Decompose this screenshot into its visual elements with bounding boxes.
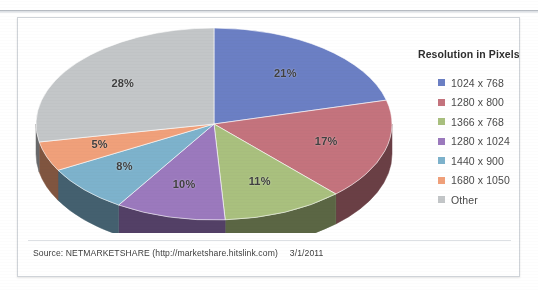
legend-item-label: 1280 x 800 <box>451 96 504 108</box>
legend-item-6[interactable]: Other <box>438 190 520 210</box>
legend-swatch-icon <box>438 196 445 203</box>
scanned-page-rule-secondary <box>0 12 538 13</box>
pie-slice-label-5: 5% <box>91 138 107 150</box>
legend-item-1[interactable]: 1280 x 800 <box>438 93 520 113</box>
pie-chart-svg <box>18 18 408 233</box>
legend-item-4[interactable]: 1440 x 900 <box>438 151 520 171</box>
legend-swatch-icon <box>438 138 445 145</box>
chart-frame: 21%17%11%10%8%5%28% Resolution in Pixels… <box>17 17 520 277</box>
legend-item-label: Other <box>451 194 478 206</box>
pie-slice-label-2: 11% <box>249 175 271 187</box>
scanned-page-artifact-text <box>140 0 400 6</box>
legend-item-label: 1680 x 1050 <box>451 174 510 186</box>
legend-item-3[interactable]: 1280 x 1024 <box>438 132 520 152</box>
pie-top-faces <box>36 28 392 220</box>
pie-slice-label-3: 10% <box>173 178 196 190</box>
footer-divider <box>28 240 511 241</box>
pie-slice-label-1: 17% <box>315 135 338 147</box>
legend-swatch-icon <box>438 99 445 106</box>
legend-title: Resolution in Pixels <box>418 48 520 60</box>
chart-legend: Resolution in Pixels 1024 x 7681280 x 80… <box>416 48 520 210</box>
legend-item-label: 1366 x 768 <box>451 116 504 128</box>
legend-item-label: 1280 x 1024 <box>451 135 510 147</box>
legend-item-5[interactable]: 1680 x 1050 <box>438 171 520 191</box>
legend-item-label: 1024 x 768 <box>451 77 504 89</box>
chart-source-footer: Source: NETMARKETSHARE (http://marketsha… <box>33 248 323 258</box>
legend-swatch-icon <box>438 118 445 125</box>
legend-swatch-icon <box>438 157 445 164</box>
source-text: Source: NETMARKETSHARE (http://marketsha… <box>33 248 278 258</box>
legend-item-label: 1440 x 900 <box>451 155 504 167</box>
legend-item-0[interactable]: 1024 x 768 <box>438 73 520 93</box>
pie-chart-plot-area: 21%17%11%10%8%5%28% <box>18 18 408 233</box>
pie-slice-label-6: 28% <box>111 77 134 89</box>
source-date: 3/1/2011 <box>290 248 324 258</box>
legend-swatch-icon <box>438 177 445 184</box>
legend-swatch-icon <box>438 79 445 86</box>
legend-item-list: 1024 x 7681280 x 8001366 x 7681280 x 102… <box>438 73 520 210</box>
pie-slice-label-0: 21% <box>274 67 297 79</box>
legend-item-2[interactable]: 1366 x 768 <box>438 112 520 132</box>
pie-slice-label-4: 8% <box>116 160 132 172</box>
